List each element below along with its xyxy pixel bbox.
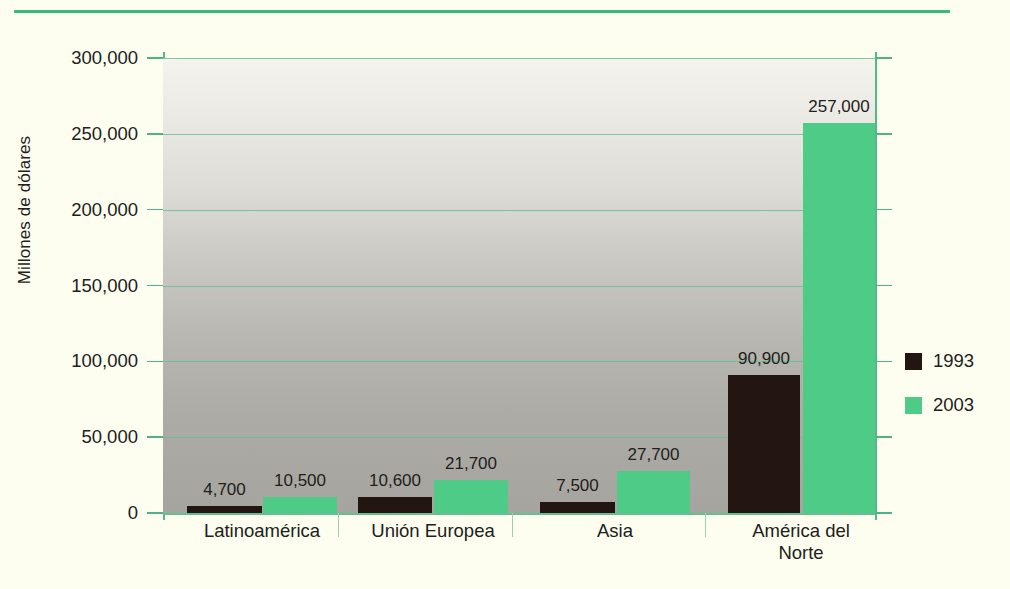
category-separator xyxy=(512,513,513,537)
y-axis-tick xyxy=(876,361,892,363)
gridline xyxy=(163,134,875,135)
bar-2003-2[interactable] xyxy=(617,471,690,513)
y-axis-tick xyxy=(876,285,892,287)
y-axis-tick-label: 100,000 xyxy=(8,350,138,372)
bar-value-label: 21,700 xyxy=(445,454,497,474)
bar-1993-1[interactable] xyxy=(358,497,432,513)
x-axis-category-label: América del Norte xyxy=(752,520,850,564)
y-axis-tick xyxy=(876,57,892,59)
y-axis-tick xyxy=(876,133,892,135)
category-separator xyxy=(705,513,706,537)
chart-legend: 1993 2003 xyxy=(905,350,974,438)
gridline xyxy=(163,286,875,287)
bar-value-label: 10,600 xyxy=(369,471,421,491)
bar-value-label: 10,500 xyxy=(274,471,326,491)
y-axis-tick-label: 300,000 xyxy=(8,47,138,69)
legend-swatch-1993 xyxy=(905,353,922,370)
y-axis-tick-label: 50,000 xyxy=(8,426,138,448)
bar-value-label: 90,900 xyxy=(738,349,790,369)
bar-2003-0[interactable] xyxy=(263,497,337,513)
y-axis-tick-label: 250,000 xyxy=(8,123,138,145)
y-axis-tick xyxy=(876,209,892,211)
bar-1993-3[interactable] xyxy=(728,375,800,513)
top-divider-rule xyxy=(14,10,950,13)
legend-label-2003: 2003 xyxy=(933,394,974,416)
bar-value-label: 257,000 xyxy=(808,97,869,117)
bar-value-label: 4,700 xyxy=(203,480,246,500)
y-axis-tick xyxy=(147,57,163,59)
x-axis-category-label: Unión Europea xyxy=(371,520,494,542)
y-axis-tick-label: 150,000 xyxy=(8,275,138,297)
y-axis-tick xyxy=(147,209,163,211)
y-axis-tick xyxy=(876,512,892,514)
gridline xyxy=(163,210,875,211)
y-axis-tick xyxy=(147,512,163,514)
y-axis-tick xyxy=(876,436,892,438)
chart-figure: Millones de dólares 050,000100,000150,00… xyxy=(0,0,1010,589)
bar-1993-2[interactable] xyxy=(540,502,615,513)
y-axis-tick xyxy=(147,133,163,135)
y-axis-tick xyxy=(147,436,163,438)
bar-value-label: 7,500 xyxy=(556,476,599,496)
bar-1993-0[interactable] xyxy=(187,506,262,513)
legend-swatch-2003 xyxy=(905,397,922,414)
gridline xyxy=(163,58,875,59)
legend-label-1993: 1993 xyxy=(933,350,974,372)
x-axis-category-label: Asia xyxy=(597,520,633,542)
plot-area xyxy=(163,58,875,513)
x-axis-baseline xyxy=(163,513,875,515)
legend-item-1993[interactable]: 1993 xyxy=(905,350,974,372)
bar-2003-1[interactable] xyxy=(434,480,508,513)
x-axis-category-label: Latinoamérica xyxy=(204,520,320,542)
y-axis-tick xyxy=(147,285,163,287)
bar-2003-3[interactable] xyxy=(803,123,875,513)
y-axis-tick-label: 0 xyxy=(8,502,138,524)
y-axis-tick xyxy=(147,361,163,363)
bar-value-label: 27,700 xyxy=(628,445,680,465)
legend-item-2003[interactable]: 2003 xyxy=(905,394,974,416)
category-separator xyxy=(338,513,339,537)
y-axis-tick-label: 200,000 xyxy=(8,199,138,221)
